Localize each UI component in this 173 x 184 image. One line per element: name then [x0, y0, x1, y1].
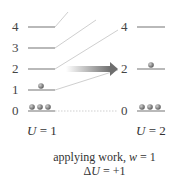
particle-icon — [139, 104, 145, 110]
left-energy-value: = 1 — [40, 123, 57, 138]
right-energy-var: U — [136, 123, 145, 138]
left-particles — [29, 83, 51, 110]
right-energy-value: = 2 — [149, 123, 166, 138]
left-energy-label: U = 1 — [27, 123, 57, 139]
particle-icon — [155, 104, 161, 110]
particle-icon — [37, 104, 43, 110]
right-energy-levels — [137, 27, 165, 111]
connector-3 — [55, 20, 96, 48]
particle-icon — [147, 104, 153, 110]
right-label-4: 4 — [121, 19, 128, 34]
left-label-2: 2 — [12, 61, 19, 76]
particle-icon — [29, 104, 35, 110]
process-prefix: applying work, — [53, 150, 129, 164]
delta-value: = +1 — [100, 164, 126, 178]
particle-icon — [38, 83, 44, 89]
left-level-labels: 4 3 2 1 0 — [12, 19, 19, 118]
right-energy-label: U = 2 — [136, 123, 166, 139]
connector-2 — [55, 30, 118, 69]
connector-1 — [55, 70, 118, 90]
left-label-0: 0 — [12, 103, 19, 118]
left-energy-var: U — [27, 123, 36, 138]
delta-caption: ΔU = +1 — [0, 165, 173, 178]
process-value: = 1 — [137, 150, 156, 164]
left-label-4: 4 — [12, 19, 19, 34]
particle-icon — [45, 104, 51, 110]
right-label-0: 0 — [121, 103, 128, 118]
level-connectors — [55, 12, 118, 111]
process-caption: applying work, w = 1 — [0, 151, 173, 164]
left-label-3: 3 — [12, 40, 19, 55]
left-label-1: 1 — [12, 82, 19, 97]
particle-icon — [148, 62, 154, 68]
delta-var: U — [91, 164, 100, 178]
right-label-2: 2 — [121, 61, 128, 76]
right-level-labels: 4 2 0 — [121, 19, 128, 118]
process-var: w — [129, 150, 137, 164]
work-arrow-icon — [66, 62, 118, 76]
connector-4 — [55, 12, 68, 27]
left-energy-levels — [28, 27, 55, 111]
energy-level-diagram: 4 3 2 1 0 4 2 0 — [0, 0, 173, 130]
